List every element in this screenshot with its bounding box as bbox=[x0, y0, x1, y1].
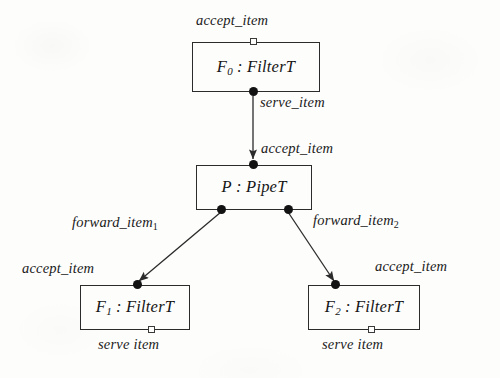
label-p-accept: accept_item bbox=[261, 140, 333, 157]
node-p-label: P : PipeT bbox=[221, 177, 286, 197]
port-f1-accept-ball-icon[interactable] bbox=[133, 280, 142, 289]
label-f2-accept: accept_item bbox=[375, 258, 447, 275]
port-f2-accept-ball-icon[interactable] bbox=[331, 280, 340, 289]
port-p-forward2-ball-icon[interactable] bbox=[284, 205, 293, 214]
node-f2[interactable]: F2 : FilterT bbox=[308, 285, 420, 330]
label-f1-serve: serve item bbox=[98, 336, 159, 353]
port-f1-serve-socket-icon[interactable] bbox=[148, 326, 155, 333]
component-diagram-canvas: F0 : FilterT P : PipeT F1 : FilterT F2 :… bbox=[0, 0, 500, 378]
node-f0-label: F0 : FilterT bbox=[217, 57, 295, 77]
label-f0-accept: accept_item bbox=[196, 12, 268, 29]
label-f0-serve: serve_item bbox=[260, 94, 325, 111]
node-f0[interactable]: F0 : FilterT bbox=[192, 42, 320, 92]
port-f0-accept-socket-icon[interactable] bbox=[250, 38, 257, 45]
node-p[interactable]: P : PipeT bbox=[196, 165, 312, 210]
label-f1-accept: accept_item bbox=[22, 260, 94, 277]
port-p-accept-ball-icon[interactable] bbox=[249, 160, 258, 169]
label-p-forward1: forward_item1 bbox=[72, 214, 158, 232]
port-f2-serve-socket-icon[interactable] bbox=[368, 326, 375, 333]
node-f1[interactable]: F1 : FilterT bbox=[80, 285, 190, 330]
node-f1-label: F1 : FilterT bbox=[96, 297, 174, 317]
node-f2-label: F2 : FilterT bbox=[325, 297, 403, 317]
port-f0-serve-ball-icon[interactable] bbox=[249, 87, 258, 96]
port-p-forward1-ball-icon[interactable] bbox=[217, 205, 226, 214]
label-p-forward2: forward_item2 bbox=[313, 212, 399, 230]
label-f2-serve: serve item bbox=[322, 336, 383, 353]
